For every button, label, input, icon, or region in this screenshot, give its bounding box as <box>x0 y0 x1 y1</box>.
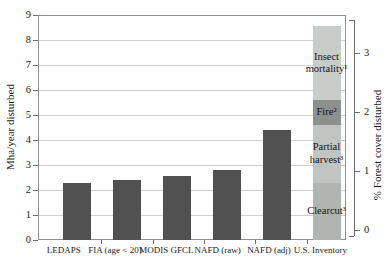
y-axis-tick <box>33 240 38 241</box>
stacked-segment-label: Clearcut³ <box>307 205 346 217</box>
stacked-bar-segment: Fire² <box>313 100 341 125</box>
y-axis-tick <box>33 65 38 66</box>
stacked-bar-segment: Insect mortality¹ <box>313 26 341 100</box>
gridline <box>39 90 345 91</box>
gridline <box>39 140 345 141</box>
bar <box>63 183 91 241</box>
gridline <box>39 40 345 41</box>
y2-axis-tick <box>355 53 360 54</box>
bar <box>213 170 241 240</box>
y-axis-tick <box>33 190 38 191</box>
stacked-segment-label: Fire² <box>316 106 336 118</box>
y-axis-tick <box>33 115 38 116</box>
x-axis-category-label: U.S. Inventory <box>275 245 365 256</box>
stacked-bar-segment: Clearcut³ <box>313 183 341 241</box>
y2-axis-tick <box>355 230 360 231</box>
y-axis-tick <box>33 140 38 141</box>
x-axis-tick <box>307 240 308 244</box>
gridline <box>39 115 345 116</box>
x-axis-tick <box>153 240 154 244</box>
y-axis-tick-label: 9 <box>11 9 31 21</box>
y-axis-tick <box>33 165 38 166</box>
stacked-bar-segment: Partial harvest³ <box>313 125 341 183</box>
y-axis-tick <box>33 40 38 41</box>
gridline <box>39 65 345 66</box>
bar <box>263 130 291 240</box>
y-axis-tick <box>33 15 38 16</box>
bar <box>163 176 191 240</box>
stacked-segment-label: Partial harvest³ <box>310 141 343 166</box>
bar <box>113 180 141 240</box>
stacked-segment-label: Insect mortality¹ <box>306 51 348 76</box>
y-axis-tick <box>33 90 38 91</box>
x-axis-tick <box>255 240 256 244</box>
gridline <box>39 165 345 166</box>
x-axis-tick <box>204 240 205 244</box>
y2-axis-bottom-cap <box>349 236 354 237</box>
y2-axis-title: % Forest cover disturbed <box>370 45 384 245</box>
y2-axis-tick <box>355 171 360 172</box>
y-axis-title: Mha/year disturbed <box>3 27 17 227</box>
y2-axis-top-cap <box>349 20 354 21</box>
disturbance-rate-bar-chart: Clearcut³Partial harvest³Fire²Insect mor… <box>0 0 386 261</box>
y2-axis-tick <box>355 112 360 113</box>
y-axis-tick <box>33 215 38 216</box>
x-axis-tick <box>101 240 102 244</box>
